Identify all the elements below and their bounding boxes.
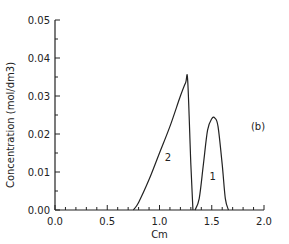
curve-label-2: 2 [165, 152, 171, 163]
x-tick-label: 1.5 [204, 216, 220, 227]
x-tick-label: 0.0 [47, 216, 63, 227]
x-axis-label: Cm [151, 229, 168, 240]
axes: 0.00.51.01.52.00.000.010.020.030.040.05 [28, 15, 272, 228]
panel-label: (b) [251, 121, 265, 132]
y-tick-label: 0.01 [28, 167, 50, 178]
y-tick-label: 0.04 [28, 53, 50, 64]
y-tick-label: 0.00 [28, 205, 50, 216]
x-tick-label: 2.0 [256, 216, 272, 227]
y-axis-label: Concentration (mol/dm3) [5, 62, 16, 188]
x-tick-label: 1.0 [152, 216, 168, 227]
y-tick-label: 0.03 [28, 91, 50, 102]
concentration-chart: 0.00.51.01.52.00.000.010.020.030.040.05 … [0, 0, 289, 244]
curve-label-1: 1 [210, 171, 216, 182]
curves [133, 75, 228, 210]
curve-1 [195, 117, 228, 210]
x-tick-label: 0.5 [99, 216, 115, 227]
y-tick-label: 0.02 [28, 129, 50, 140]
curve-2 [133, 75, 193, 210]
y-tick-label: 0.05 [28, 15, 50, 26]
